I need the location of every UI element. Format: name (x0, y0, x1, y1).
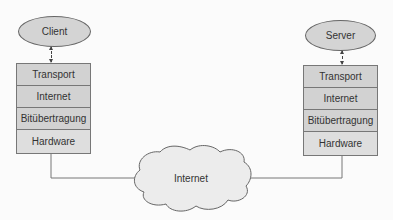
server-layer-physical: Bitübertragung (304, 110, 377, 132)
client-layer-transport: Transport (17, 64, 90, 86)
server-layer-internet: Internet (304, 88, 377, 110)
client-arrow (51, 47, 53, 62)
server-node: Server (305, 20, 376, 51)
client-node: Client (18, 16, 91, 47)
client-label: Client (42, 26, 68, 37)
server-protocol-stack: Transport Internet Bitübertragung Hardwa… (303, 65, 378, 156)
client-layer-physical: Bitübertragung (17, 108, 90, 130)
internet-label: Internet (174, 173, 208, 184)
client-layer-hardware: Hardware (17, 130, 90, 153)
server-layer-transport: Transport (304, 66, 377, 88)
server-label: Server (326, 30, 355, 41)
server-layer-hardware: Hardware (304, 132, 377, 155)
client-protocol-stack: Transport Internet Bitübertragung Hardwa… (16, 63, 91, 154)
server-arrow (342, 51, 344, 64)
client-layer-internet: Internet (17, 86, 90, 108)
